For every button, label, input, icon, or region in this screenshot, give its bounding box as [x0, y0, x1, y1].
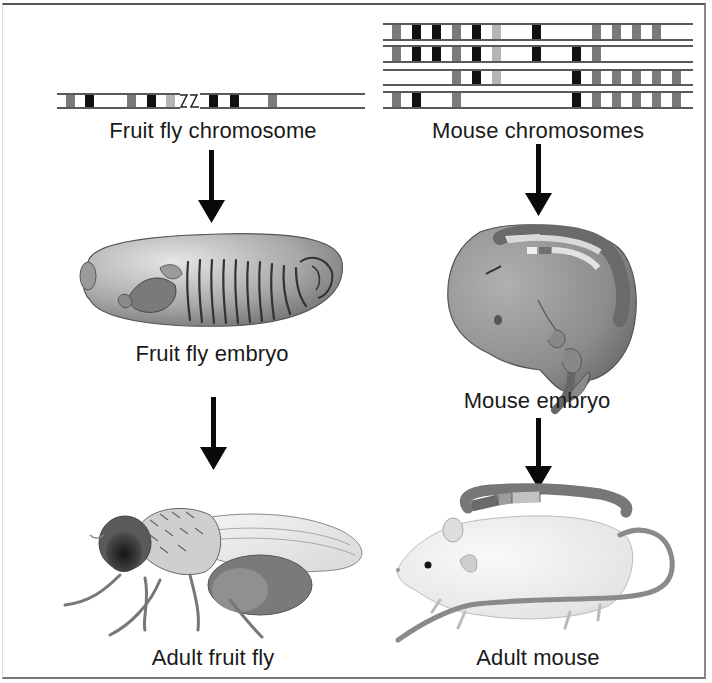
- arrow-mouse-chromosomes-to-embryo: [525, 144, 552, 216]
- chromosome-band: [432, 47, 441, 61]
- chromosome-band: [412, 25, 421, 39]
- chromosome-band: [452, 47, 461, 61]
- fly-embryo-label: Fruit fly embryo: [135, 341, 288, 367]
- chromosome-band: [492, 25, 501, 39]
- mouse-chromosome-4: [383, 92, 693, 108]
- chromosome-band: [230, 95, 239, 107]
- chromosome-band: [66, 95, 75, 107]
- chromosome-band: [392, 93, 401, 107]
- chromosome-band: [452, 25, 461, 39]
- chromosome-band: [452, 93, 461, 107]
- chromosome-band: [672, 93, 681, 107]
- arrow-fly-embryo-to-adult: [200, 397, 227, 470]
- arrow-mouse-embryo-to-adult: [525, 418, 552, 489]
- chromosome-band: [412, 93, 421, 107]
- mouse-embryo-label: Mouse embryo: [464, 388, 611, 414]
- mouse-chromosomes: [383, 24, 693, 108]
- arrow-fly-chromosome-to-embryo: [198, 150, 225, 223]
- chromosome-band: [209, 95, 218, 107]
- mouse-embryo-illustration: [448, 225, 636, 410]
- adult-mouse-label: Adult mouse: [476, 645, 599, 671]
- chromosome-band: [652, 71, 661, 84]
- chromosome-band: [592, 47, 601, 61]
- chromosome-band: [612, 93, 621, 107]
- chromosome-band: [592, 71, 601, 84]
- chromosome-band: [472, 47, 481, 61]
- chromosome-band: [432, 25, 441, 39]
- chromosome-band: [532, 25, 541, 39]
- adult-mouse-illustration: [396, 489, 672, 640]
- chromosome-band: [492, 71, 501, 84]
- chromosome-band: [392, 47, 401, 61]
- chromosome-band: [85, 95, 94, 107]
- fly-chromosome-bands: [66, 95, 277, 107]
- chromosome-band: [492, 47, 501, 61]
- chromosome-band: [612, 25, 621, 39]
- chromosome-band: [472, 25, 481, 39]
- chromosome-band: [572, 71, 581, 84]
- chromosome-band: [166, 95, 175, 107]
- chromosome-band: [632, 93, 641, 107]
- chromosome-band: [412, 47, 421, 61]
- mouse-chromosomes-label: Mouse chromosomes: [432, 118, 644, 144]
- zigzag-break-icon: [180, 93, 200, 109]
- chromosome-band: [592, 93, 601, 107]
- chromosome-band: [392, 25, 401, 39]
- chromosome-band: [592, 25, 601, 39]
- mouse-chromosome-2: [383, 46, 693, 62]
- fly-embryo-illustration: [80, 234, 342, 327]
- chromosome-band: [452, 71, 461, 84]
- mouse-chromosome-3: [383, 70, 693, 85]
- chromosome-band: [652, 25, 661, 39]
- chromosome-band: [632, 71, 641, 84]
- mouse-chromosome-1: [383, 24, 693, 40]
- chromosome-band: [532, 47, 541, 61]
- chromosome-band: [612, 71, 621, 84]
- adult-fly-label: Adult fruit fly: [152, 645, 275, 671]
- diagram-canvas: [0, 0, 712, 683]
- chromosome-band: [147, 95, 156, 107]
- fly-chromosome: [57, 93, 365, 109]
- adult-fly-illustration: [65, 508, 362, 637]
- chromosome-band: [652, 93, 661, 107]
- chromosome-band: [268, 95, 277, 107]
- chromosome-band: [127, 95, 136, 107]
- chromosome-band: [672, 71, 681, 84]
- fly-chromosome-label: Fruit fly chromosome: [109, 118, 316, 144]
- chromosome-band: [472, 71, 481, 84]
- chromosome-band: [572, 93, 581, 107]
- chromosome-band: [632, 25, 641, 39]
- chromosome-band: [572, 47, 581, 61]
